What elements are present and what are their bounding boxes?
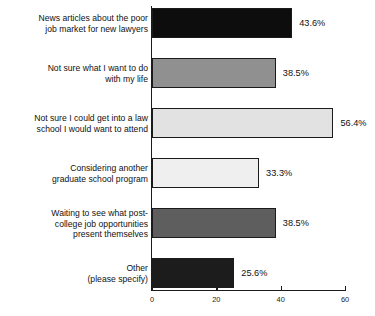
category-label: Not sure I could get into a law school I… [8, 113, 148, 134]
bar-row: News articles about the poor job market … [0, 0, 375, 50]
bar-value-label: 38.5% [276, 218, 309, 228]
bar-track: 33.3% [152, 158, 259, 188]
bar-track: 43.6% [152, 8, 292, 38]
category-label-line: job market for new lawyers [8, 24, 148, 35]
category-label: Considering another graduate school prog… [8, 163, 148, 184]
category-label-line: with my life [8, 74, 148, 85]
category-label-line: college job opportunities [8, 219, 148, 230]
bar-value-label: 33.3% [259, 168, 292, 178]
category-label-line: News articles about the poor [8, 13, 148, 24]
bar-value-label: 25.6% [234, 268, 267, 278]
category-label: Not sure what I want to do with my life [8, 63, 148, 84]
category-label-line: Other [8, 263, 148, 274]
category-label-line: Waiting to see what post- [8, 208, 148, 219]
bar-chart: News articles about the poor job market … [0, 0, 375, 316]
x-axis-tick [281, 286, 282, 291]
x-axis-tick-label: 20 [212, 295, 220, 304]
bar-row: Not sure what I want to do with my life … [0, 50, 375, 100]
category-label-line: present themselves [8, 229, 148, 240]
x-axis-tick-label: 40 [277, 295, 285, 304]
category-label-line: school I would want to attend [8, 124, 148, 135]
bar-track: 25.6% [152, 258, 234, 288]
bar-track: 56.4% [152, 108, 333, 138]
category-label: Waiting to see what post- college job op… [8, 208, 148, 240]
category-label-line: Not sure I could get into a law [8, 113, 148, 124]
bar-track: 38.5% [152, 58, 276, 88]
x-axis-tick [216, 286, 217, 291]
bar-value-label: 43.6% [292, 18, 325, 28]
bar [152, 108, 333, 138]
category-label-line: (please specify) [8, 274, 148, 285]
bar-row: Other (please specify) 25.6% [0, 250, 375, 300]
bar [152, 258, 234, 288]
bar [152, 208, 276, 238]
y-axis-line [151, 6, 152, 291]
bar-value-label: 56.4% [333, 118, 366, 128]
plot-area: News articles about the poor job market … [0, 0, 375, 316]
bar-track: 38.5% [152, 208, 276, 238]
category-label: Other (please specify) [8, 263, 148, 284]
bar-row: Waiting to see what post- college job op… [0, 200, 375, 250]
bar-value-label: 38.5% [276, 68, 309, 78]
category-label-line: graduate school program [8, 174, 148, 185]
x-axis-line [151, 290, 345, 291]
category-label-line: Not sure what I want to do [8, 63, 148, 74]
x-axis-tick [345, 286, 346, 291]
category-label: News articles about the poor job market … [8, 13, 148, 34]
x-axis-tick-label: 60 [341, 295, 349, 304]
bar [152, 58, 276, 88]
bar [152, 158, 259, 188]
x-axis-tick [152, 286, 153, 291]
category-label-line: Considering another [8, 163, 148, 174]
bar-row: Not sure I could get into a law school I… [0, 100, 375, 150]
bar-row: Considering another graduate school prog… [0, 150, 375, 200]
x-axis-tick-label: 0 [150, 295, 154, 304]
bar [152, 8, 292, 38]
